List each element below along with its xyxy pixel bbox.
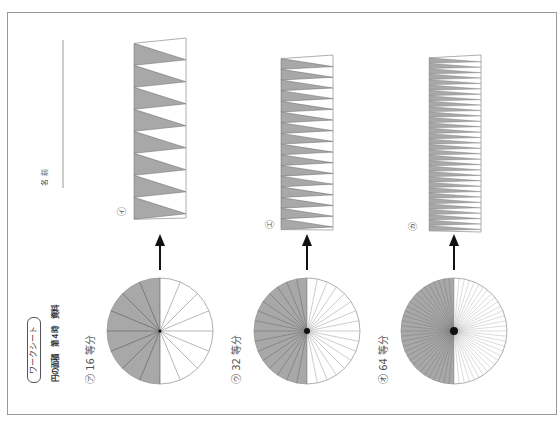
circle-label-64-text: ㋔ 64 等分 (378, 335, 389, 384)
worksheet-title-badge: ワークシート (27, 317, 41, 383)
strip-label-64: ㋕ (409, 222, 418, 231)
circle-label-64: ㋔ 64 等分 (379, 335, 389, 384)
circle-label-16-text: ㋐ 16 等分 (85, 335, 96, 384)
strip-label-16: ㋑ (118, 207, 127, 216)
circle-center-dot (159, 330, 162, 333)
circle-label-32: ㋒ 32 等分 (232, 335, 242, 384)
strip-label-16-text: ㋑ (117, 207, 127, 216)
circle-label-16: ㋐ 16 等分 (86, 335, 96, 384)
subtitle-text: 円の面積 第４時 資料 (51, 305, 60, 382)
worksheet-subtitle: 円の面積 第４時 資料 (52, 305, 60, 382)
name-label: 名前 (42, 166, 49, 186)
strip-label-32: ㋓ (266, 220, 275, 229)
divided-circle-64 (401, 278, 507, 384)
divided-circle-16 (107, 278, 213, 384)
worksheet-page: ワークシート 円の面積 第４時 資料 名前 ㋐ 16 等分 ㋒ 32 等分 ㋔ … (0, 0, 560, 423)
circle-label-32-text: ㋒ 32 等分 (231, 335, 242, 384)
circle-center-dot (450, 327, 458, 335)
worksheet-drawing (0, 0, 560, 423)
worksheet-title: ワークシート (29, 326, 38, 374)
strip-label-32-text: ㋓ (265, 220, 275, 229)
circle-center-dot (304, 328, 310, 334)
strip-label-64-text: ㋕ (408, 222, 418, 231)
name-label-text: 名前 (41, 166, 49, 186)
divided-circle-32 (254, 278, 360, 384)
